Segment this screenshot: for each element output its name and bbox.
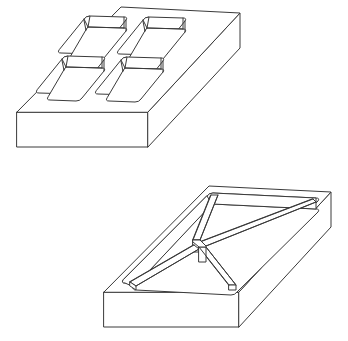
bottom-plate-front-face [104,292,239,327]
bottom-plate-object [104,186,331,327]
top-plate-object [17,7,240,147]
rib-side-face-d2 [229,285,236,290]
isometric-figure-canvas [0,0,348,341]
top-plate-front-face [17,112,148,147]
